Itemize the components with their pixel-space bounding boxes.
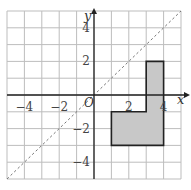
y-tick-label: 2 xyxy=(82,54,90,68)
x-axis-arrow-icon xyxy=(184,92,190,98)
shape-layer xyxy=(111,61,163,145)
x-tick-label: −4 xyxy=(16,100,34,114)
x-tick-label: 2 xyxy=(125,100,133,114)
x-tick-label: −2 xyxy=(50,100,68,114)
coordinate-figure: x y O −4−22442−2−4 xyxy=(0,0,191,190)
y-tick-label: 4 xyxy=(82,21,90,35)
origin-label: O xyxy=(84,96,94,110)
x-axis-label: x xyxy=(177,92,185,107)
coordinate-plane: x y O −4−22442−2−4 xyxy=(0,0,191,190)
y-tick-label: −2 xyxy=(72,122,90,136)
x-tick-label: 4 xyxy=(160,100,168,114)
y-tick-label: −4 xyxy=(72,155,90,169)
l-shape-polygon xyxy=(111,61,163,145)
